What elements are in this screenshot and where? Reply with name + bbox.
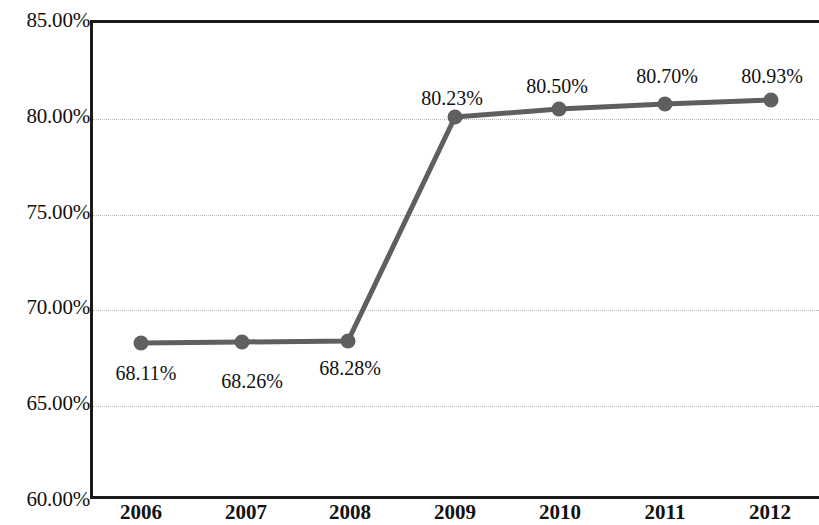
series-line	[141, 100, 771, 343]
data-point-marker	[764, 93, 779, 108]
data-point-label: 80.23%	[421, 88, 483, 108]
data-point-marker	[658, 97, 673, 112]
x-tick-label: 2007	[225, 502, 267, 523]
x-tick-label: 2010	[539, 502, 581, 523]
data-point-marker	[235, 335, 250, 350]
data-point-marker	[448, 110, 463, 125]
data-point-label: 80.70%	[636, 66, 698, 86]
x-tick-label: 2008	[329, 502, 371, 523]
x-tick-label: 2006	[120, 502, 162, 523]
data-point-label: 68.11%	[116, 363, 177, 383]
x-axis: 2006 2007 2008 2009 2010 2011 2012	[90, 502, 819, 525]
line-chart: 85.00% 80.00% 75.00% 70.00% 65.00% 60.00…	[0, 0, 819, 525]
data-point-label: 80.93%	[741, 66, 803, 86]
x-tick-label: 2011	[645, 502, 686, 523]
x-tick-label: 2009	[434, 502, 476, 523]
x-tick-label: 2012	[749, 502, 791, 523]
data-point-marker	[341, 334, 356, 349]
series-markers	[134, 93, 779, 351]
data-point-label: 68.26%	[221, 371, 283, 391]
data-point-label: 80.50%	[526, 76, 588, 96]
data-point-marker	[134, 336, 149, 351]
data-point-marker	[552, 102, 567, 117]
data-point-label: 68.28%	[319, 358, 381, 378]
